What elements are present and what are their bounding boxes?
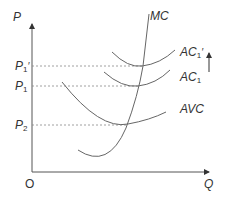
avc-curve [62,82,166,125]
avc-label: AVC [179,102,204,116]
origin-label: O [25,177,34,191]
p1-label: P1 [15,79,28,94]
y-axis-label: P [13,10,21,24]
p1-prime-label: P1′ [15,59,30,74]
p2-label: P2 [15,118,28,133]
cost-curves-diagram: P Q O P1′ P1 P2 AVC AC1 AC1′ MC [0,0,225,200]
mc-curve [78,14,149,156]
ac1-prime-label: AC1′ [179,45,204,60]
ac1-curve [104,70,170,86]
mc-label: MC [150,9,169,23]
x-axis-label: Q [204,177,213,191]
ac1-label: AC1 [179,70,202,85]
